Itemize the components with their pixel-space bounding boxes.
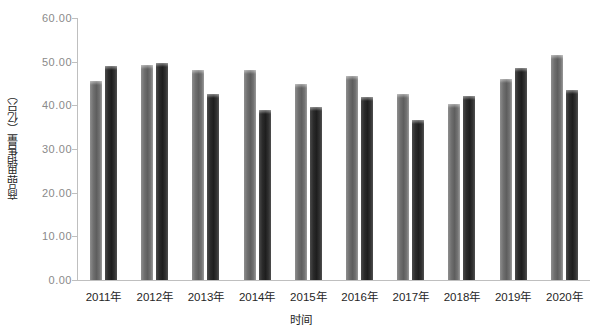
bar	[90, 81, 102, 280]
bar	[207, 94, 219, 280]
bar-group	[385, 18, 436, 280]
bar	[412, 120, 424, 280]
bar	[156, 63, 168, 280]
x-axis-tick-label: 2015年	[290, 288, 327, 304]
bar	[346, 76, 358, 280]
bar	[361, 97, 373, 280]
bar	[141, 65, 153, 280]
bar-group	[78, 18, 129, 280]
bar-group	[436, 18, 487, 280]
bar	[259, 110, 271, 280]
bar	[192, 70, 204, 280]
x-axis-tick-label: 2019年	[495, 288, 532, 304]
bar	[551, 55, 563, 280]
x-axis-tick-label: 2012年	[137, 288, 174, 304]
bar	[244, 70, 256, 280]
bar-group	[334, 18, 385, 280]
y-axis-tick-mark	[72, 62, 77, 63]
y-axis-tick-label: 10.00	[18, 230, 72, 242]
bar-group	[283, 18, 334, 280]
y-axis-tick-mark	[72, 236, 77, 237]
x-axis-tick-labels: 2011年2012年2013年2014年2015年2016年2017年2018年…	[78, 288, 590, 310]
y-axis-tick-labels: 0.0010.0020.0030.0040.0050.0060.00	[16, 0, 72, 334]
x-axis-title: 时间	[0, 311, 602, 327]
y-axis-tick-label: 0.00	[18, 274, 72, 286]
y-axis-tick-mark	[72, 149, 77, 150]
bar-group	[232, 18, 283, 280]
x-axis-tick-label: 2020年	[546, 288, 583, 304]
x-axis-tick-label: 2014年	[239, 288, 276, 304]
y-axis-tick-label: 30.00	[18, 143, 72, 155]
bar	[566, 90, 578, 280]
bar	[500, 79, 512, 280]
y-axis-tick-mark	[72, 105, 77, 106]
y-axis-tick-label: 50.00	[18, 56, 72, 68]
x-axis-tick-label: 2011年	[86, 288, 122, 304]
bar-group	[129, 18, 180, 280]
y-axis-tick-mark	[72, 280, 77, 281]
y-axis-tick-mark	[72, 18, 77, 19]
bar-chart: 商品苗销售量（亿只） 0.0010.0020.0030.0040.0050.00…	[0, 0, 602, 334]
bar	[515, 68, 527, 280]
bar	[448, 104, 460, 280]
bar	[105, 66, 117, 280]
x-axis-tick-label: 2013年	[188, 288, 225, 304]
x-axis-tick-label: 2017年	[393, 288, 430, 304]
x-axis-line	[77, 280, 590, 281]
y-axis-tick-label: 20.00	[18, 187, 72, 199]
y-axis-tick-label: 40.00	[18, 99, 72, 111]
bar	[310, 107, 322, 280]
bar-group	[180, 18, 231, 280]
bar	[397, 94, 409, 280]
bar	[295, 84, 307, 281]
y-axis-tick-mark	[72, 193, 77, 194]
bar-group	[488, 18, 539, 280]
plot-area	[78, 18, 590, 280]
bar	[463, 96, 475, 280]
x-axis-tick-label: 2018年	[444, 288, 481, 304]
bar-group	[539, 18, 590, 280]
x-axis-tick-label: 2016年	[341, 288, 378, 304]
y-axis-tick-label: 60.00	[18, 12, 72, 24]
